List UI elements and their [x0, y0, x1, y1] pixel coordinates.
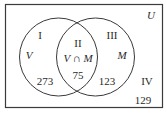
- region-iii-value: 123: [99, 76, 116, 87]
- region-ii-value: 75: [73, 70, 84, 81]
- venn-diagram: U I V 273 II V ∩ M 75 III M 123 IV 129: [0, 0, 167, 113]
- region-i-value: 273: [37, 76, 54, 87]
- set-m-label: M: [117, 50, 126, 61]
- set-v-label: V: [26, 50, 33, 61]
- region-iii-label: III: [107, 30, 118, 41]
- region-i-label: I: [38, 30, 42, 41]
- region-iv-label: IV: [141, 76, 153, 87]
- region-ii-label: II: [74, 38, 81, 49]
- intersection-label: V ∩ M: [63, 53, 92, 64]
- universe-label: U: [147, 10, 155, 21]
- region-iv-value: 129: [135, 95, 152, 106]
